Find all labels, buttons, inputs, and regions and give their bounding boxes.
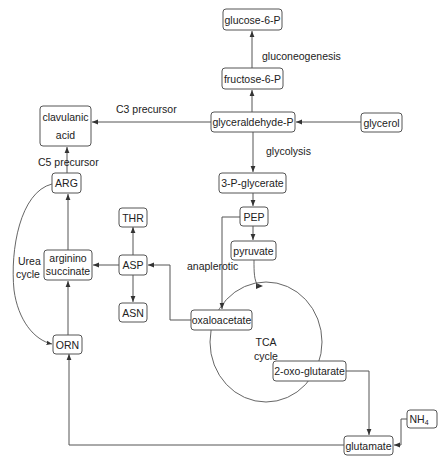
edge-nh4-to-glutamate: [394, 419, 407, 445]
node-pep[interactable]: PEP: [240, 207, 268, 226]
node-label-line1: arginino: [49, 252, 87, 264]
node-fructose-6-p[interactable]: fructose-6-P: [222, 68, 283, 89]
label-glycolysis: glycolysis: [266, 145, 311, 157]
node-label: ARG: [55, 177, 78, 189]
node-clavulanic-acid[interactable]: clavulanic acid: [40, 106, 91, 146]
node-3-p-glycerate[interactable]: 3-P-glycerate: [219, 173, 286, 193]
node-glutamate[interactable]: glutamate: [344, 436, 393, 455]
label-tca-line2: cycle: [254, 350, 278, 362]
nh-text: NH: [409, 413, 424, 425]
label-gluconeogenesis: gluconeogenesis: [262, 50, 341, 62]
label-anaplerotic: anaplerotic: [187, 260, 238, 272]
node-arg[interactable]: ARG: [52, 173, 81, 193]
node-nh4[interactable]: NH4: [407, 410, 437, 428]
edge-pyruvate-to-tca: [254, 260, 258, 286]
node-thr[interactable]: THR: [119, 208, 147, 227]
node-asn[interactable]: ASN: [119, 303, 147, 322]
node-glyceraldehyde-p[interactable]: glyceraldehyde-P: [211, 112, 295, 132]
node-label: glycerol: [363, 117, 399, 129]
label-tca-line1: TCA: [256, 336, 277, 348]
label-urea-line1: Urea: [18, 255, 41, 267]
node-glycerol[interactable]: glycerol: [361, 113, 402, 132]
node-label: glutamate: [345, 440, 391, 452]
node-asp[interactable]: ASP: [119, 255, 147, 275]
node-label-line2: acid: [56, 129, 75, 141]
node-label: ASN: [122, 307, 144, 319]
node-label: glucose-6-P: [224, 14, 280, 26]
node-label: THR: [122, 212, 144, 224]
node-label: pyruvate: [233, 245, 273, 257]
edge-oxoglutarate-to-glutamate: [346, 371, 369, 435]
node-label: glyceraldehyde-P: [212, 116, 293, 128]
edges: [13, 31, 407, 445]
node-orn[interactable]: ORN: [53, 335, 82, 354]
node-glucose-6-p[interactable]: glucose-6-P: [223, 9, 282, 30]
node-label: ASP: [122, 259, 143, 271]
node-arginino-succinate[interactable]: arginino succinate: [44, 250, 92, 280]
label-c5-precursor: C5 precursor: [38, 156, 99, 168]
label-c3-precursor: C3 precursor: [116, 103, 177, 115]
node-label-line1: clavulanic: [42, 111, 88, 123]
node-2-oxo-glutarate[interactable]: 2-oxo-glutarate: [273, 361, 346, 381]
node-oxaloacetate[interactable]: oxaloacetate: [191, 310, 252, 330]
node-label: 3-P-glycerate: [221, 177, 284, 189]
pathway-diagram: glucose-6-P fructose-6-P glyceraldehyde-…: [0, 0, 446, 463]
node-pyruvate[interactable]: pyruvate: [231, 241, 276, 260]
node-label-line2: succinate: [46, 265, 91, 277]
label-urea-line2: cycle: [16, 268, 40, 280]
node-label: ORN: [56, 339, 79, 351]
node-label: oxaloacetate: [192, 314, 252, 326]
nh4-subscript: 4: [425, 419, 429, 426]
node-label: fructose-6-P: [224, 73, 281, 85]
edge-oxaloacetate-to-asp: [148, 265, 191, 320]
node-label: PEP: [243, 211, 264, 223]
node-label: 2-oxo-glutarate: [274, 365, 345, 377]
